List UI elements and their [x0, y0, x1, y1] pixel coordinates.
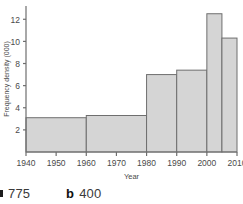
- x-tick-label: 1960: [77, 158, 96, 168]
- bar: [207, 14, 222, 152]
- answer-a-value: 775: [8, 186, 30, 201]
- y-axis-title: Frequency density (000): [3, 41, 11, 116]
- bar: [177, 70, 207, 152]
- x-tick-label: 1990: [167, 158, 186, 168]
- y-tick-label: 12: [11, 15, 21, 25]
- x-tick-label: 2000: [197, 158, 216, 168]
- x-tick-label: 1940: [17, 158, 36, 168]
- x-tick-label: 1950: [47, 158, 66, 168]
- y-tick-label: 2: [15, 125, 20, 135]
- bar: [26, 118, 86, 152]
- histogram-figure: 2468101219401950196019701980199020002010…: [0, 0, 243, 182]
- bar: [86, 116, 146, 153]
- y-ticks: 24681012: [11, 15, 26, 136]
- x-axis-title: Year: [124, 172, 140, 181]
- x-ticks: 19401950196019701980199020002010: [17, 152, 243, 168]
- answer-b-value: 400: [79, 186, 101, 201]
- x-tick-label: 2010: [228, 158, 243, 168]
- y-tick-label: 4: [15, 103, 20, 113]
- bar: [222, 38, 237, 152]
- answer-b-marker: b: [66, 186, 74, 201]
- y-tick-label: 6: [15, 81, 20, 91]
- answer-a: a 775: [0, 182, 30, 204]
- y-tick-label: 8: [15, 59, 20, 69]
- answers-row: a 775 b 400: [0, 182, 243, 204]
- answer-b: b 400: [66, 182, 101, 204]
- bars-group: [26, 14, 237, 152]
- y-tick-label: 10: [11, 37, 21, 47]
- bar: [147, 75, 177, 152]
- x-tick-label: 1980: [137, 158, 156, 168]
- answer-a-marker: a: [0, 190, 3, 197]
- x-tick-label: 1970: [107, 158, 126, 168]
